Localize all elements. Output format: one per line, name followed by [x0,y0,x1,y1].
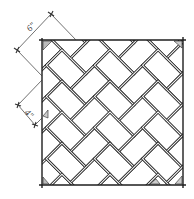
brick [22,0,62,12]
brick [94,0,134,27]
brick [70,3,110,43]
brick [167,190,194,199]
brick [191,50,194,90]
brick [191,81,194,121]
brick [70,190,110,199]
extension-line [35,118,42,125]
brick [70,3,110,43]
brick [118,3,158,43]
brick [0,143,38,183]
brick [22,190,62,199]
brick [118,0,158,12]
extension-line [51,14,76,40]
brick [94,174,134,199]
brick [167,0,194,12]
brick [167,3,194,43]
extension-line [17,50,42,76]
brick [191,0,194,27]
brick [46,174,86,199]
brick [191,0,194,27]
brick [0,174,38,199]
brick [0,65,14,105]
brick [191,143,194,183]
brick [191,174,194,199]
brick [191,19,194,59]
brick [0,128,14,168]
brick [0,190,14,199]
brick [191,112,194,152]
brick [0,34,14,74]
brick [0,112,38,152]
brick [143,0,183,27]
brick [143,0,183,27]
brick [0,190,14,199]
herringbone-sketch: 6" 4" [0,0,194,199]
brick [0,65,14,105]
dimension-annotations [14,11,76,128]
brick [167,3,194,43]
brick [0,159,14,199]
extension-line [18,80,42,105]
brick [0,3,14,43]
dimension-label-width: 4" [23,107,36,120]
brick [0,50,38,90]
brick [0,159,14,199]
dimension-label-length: 6" [24,20,37,33]
brick [191,112,194,152]
brick [0,112,38,152]
brick [0,3,14,43]
brick [143,174,183,199]
brick [0,143,38,183]
brick [118,190,158,199]
brick [0,174,38,199]
brick [22,0,62,12]
brick [94,0,134,27]
brick [0,0,14,12]
brick [191,143,194,183]
brick [22,190,62,199]
brick [191,50,194,90]
brick [167,190,194,199]
brick [0,34,14,74]
brick [118,3,158,43]
brick [191,19,194,59]
brick [167,0,194,12]
brick [70,190,110,199]
brick [118,190,158,199]
brick [0,96,14,136]
brick [0,0,14,12]
brick [191,81,194,121]
brick [70,0,110,12]
brick [118,0,158,12]
brick [0,96,14,136]
brick [0,50,38,90]
brick [0,128,14,168]
brick [70,0,110,12]
brick [191,174,194,199]
